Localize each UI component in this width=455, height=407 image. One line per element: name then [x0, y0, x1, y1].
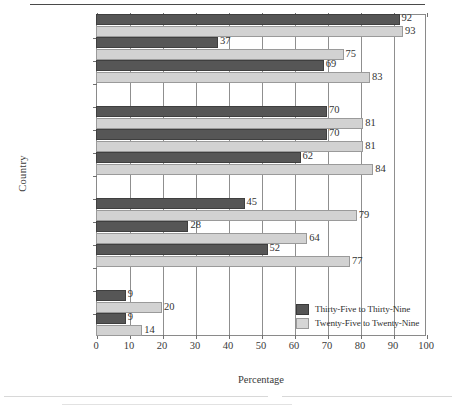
bar-value-label: 93: [405, 25, 416, 36]
bar-value-label: 70: [329, 127, 340, 138]
bar-value-label: 62: [303, 150, 314, 161]
y-tick: [93, 84, 97, 85]
x-tick-label-90: 90: [388, 340, 399, 351]
bar-thirty-five-to-thirty-nine: [96, 37, 218, 48]
chart-legend: Thirty-Five to Thirty-NineTwenty-Five to…: [296, 302, 446, 330]
bar-value-label: 45: [247, 196, 258, 207]
x-tick-label-70: 70: [322, 340, 333, 351]
bar-twenty-five-to-twenty-nine: [96, 325, 142, 336]
bottom-rule-left: [4, 396, 268, 397]
bar-value-label: 14: [144, 324, 155, 335]
x-tick-20: [163, 335, 164, 339]
legend-item-thirty_five_to_thirty_nine: Thirty-Five to Thirty-Nine: [296, 302, 446, 316]
bar-value-label: 92: [402, 12, 413, 23]
bar-thirty-five-to-thirty-nine: [96, 290, 126, 301]
bar-thirty-five-to-thirty-nine: [96, 106, 327, 117]
bar-value-label: 84: [375, 163, 386, 174]
bar-twenty-five-to-twenty-nine: [96, 210, 357, 221]
x-tick-60: [295, 335, 296, 339]
bar-twenty-five-to-twenty-nine: [96, 164, 373, 175]
bar-twenty-five-to-twenty-nine: [96, 141, 363, 152]
bar-thirty-five-to-thirty-nine: [96, 313, 126, 324]
gridline-90: [394, 15, 395, 335]
legend-item-twenty_five_to_twenty_nine: Twenty-Five to Twenty-Nine: [296, 316, 446, 330]
x-tick-label-80: 80: [355, 340, 366, 351]
bar-twenty-five-to-twenty-nine: [96, 72, 370, 83]
bar-value-label: 28: [190, 219, 201, 230]
x-tick-30: [196, 335, 197, 339]
top-rule: [30, 4, 425, 5]
bar-thirty-five-to-thirty-nine: [96, 221, 188, 232]
bar-value-label: 64: [309, 232, 320, 243]
bar-twenty-five-to-twenty-nine: [96, 26, 403, 37]
bar-value-label: 52: [270, 242, 281, 253]
x-tick-label-0: 0: [93, 340, 98, 351]
bar-value-label: 70: [329, 104, 340, 115]
bar-thirty-five-to-thirty-nine: [96, 198, 245, 209]
y-tick: [93, 176, 97, 177]
y-axis-title: Country: [17, 134, 28, 214]
y-tick: [93, 268, 97, 269]
legend-swatch-twenty_five_to_twenty_nine: [296, 318, 309, 329]
bar-value-label: 20: [164, 301, 175, 312]
x-tick-label-50: 50: [256, 340, 267, 351]
bar-value-label: 81: [365, 117, 376, 128]
x-axis-tick-labels: 0102030405060708090100: [96, 340, 426, 356]
x-tick-label-10: 10: [124, 340, 135, 351]
x-tick-label-30: 30: [190, 340, 201, 351]
x-tick-label-60: 60: [289, 340, 300, 351]
gridline-80: [361, 15, 362, 335]
bar-thirty-five-to-thirty-nine: [96, 14, 400, 25]
bar-value-label: 75: [346, 48, 357, 59]
bar-twenty-five-to-twenty-nine: [96, 49, 344, 60]
bar-thirty-five-to-thirty-nine: [96, 60, 324, 71]
legend-label: Twenty-Five to Twenty-Nine: [315, 318, 419, 328]
x-axis-title: Percentage: [96, 374, 426, 385]
bar-thirty-five-to-thirty-nine: [96, 152, 301, 163]
bar-thirty-five-to-thirty-nine: [96, 244, 268, 255]
bar-thirty-five-to-thirty-nine: [96, 129, 327, 140]
x-tick-40: [229, 335, 230, 339]
bar-twenty-five-to-twenty-nine: [96, 118, 363, 129]
bar-value-label: 77: [352, 255, 363, 266]
x-tick-100: [427, 335, 428, 339]
legend-label: Thirty-Five to Thirty-Nine: [315, 304, 410, 314]
bar-value-label: 37: [220, 35, 231, 46]
x-tick-80: [361, 335, 362, 339]
x-tick-50: [262, 335, 263, 339]
bar-value-label: 83: [372, 71, 383, 82]
x-tick-70: [328, 335, 329, 339]
bar-value-label: 9: [128, 311, 133, 322]
x-tick-label-100: 100: [418, 340, 434, 351]
bar-twenty-five-to-twenty-nine: [96, 256, 350, 267]
x-tick-90: [394, 335, 395, 339]
bar-value-label: 79: [359, 209, 370, 220]
x-tick-label-20: 20: [157, 340, 168, 351]
bottom-rule-right: [282, 396, 452, 397]
x-tick-label-40: 40: [223, 340, 234, 351]
legend-swatch-thirty_five_to_thirty_nine: [296, 304, 309, 315]
bar-value-label: 69: [326, 58, 337, 69]
bottom-rule-faint: [62, 404, 292, 405]
bar-value-label: 9: [128, 288, 133, 299]
x-tick-top-100: [427, 13, 428, 17]
bar-value-label: 81: [365, 140, 376, 151]
